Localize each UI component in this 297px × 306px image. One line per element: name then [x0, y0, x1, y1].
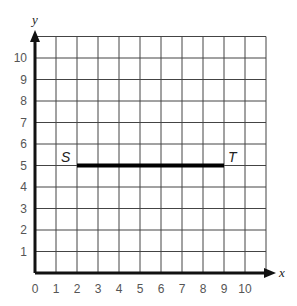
y-tick-label: 5 [20, 159, 27, 173]
y-tick-label: 7 [20, 116, 27, 130]
y-tick-label: 6 [20, 137, 27, 151]
y-tick-labels: 12345678910 [14, 51, 28, 259]
x-tick-labels: 012345678910 [32, 282, 252, 296]
axes: x y [30, 12, 285, 280]
x-tick-label: 3 [95, 282, 102, 296]
x-axis-label: x [278, 265, 285, 280]
x-tick-label: 0 [32, 282, 39, 296]
y-tick-label: 4 [20, 180, 27, 194]
x-tick-label: 2 [74, 282, 81, 296]
x-tick-label: 9 [221, 282, 228, 296]
y-tick-label: 1 [20, 245, 27, 259]
y-tick-label: 3 [20, 202, 27, 216]
point-label-s: S [61, 149, 71, 165]
point-label-t: T [228, 149, 238, 165]
y-axis-label: y [30, 12, 38, 27]
x-tick-label: 8 [200, 282, 207, 296]
x-tick-label: 1 [53, 282, 60, 296]
x-axis-arrow-icon [264, 268, 276, 278]
y-tick-label: 9 [20, 73, 27, 87]
y-tick-label: 10 [14, 51, 28, 65]
y-tick-label: 2 [20, 223, 27, 237]
coordinate-grid-chart: x y 012345678910 12345678910 S T [0, 0, 297, 306]
x-tick-label: 6 [158, 282, 165, 296]
y-tick-label: 8 [20, 94, 27, 108]
x-tick-label: 4 [116, 282, 123, 296]
x-tick-label: 10 [238, 282, 252, 296]
x-tick-label: 5 [137, 282, 144, 296]
x-tick-label: 7 [179, 282, 186, 296]
